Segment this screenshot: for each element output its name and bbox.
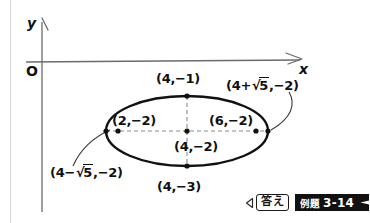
label-right-vertex: (6,−2) bbox=[209, 114, 253, 127]
dot-center bbox=[184, 128, 189, 133]
label-right-focus-suffix: ,−2) bbox=[269, 78, 299, 93]
left-arrow-icon bbox=[245, 197, 254, 209]
example-jp-label: 例題 bbox=[300, 196, 320, 210]
origin-label: O bbox=[26, 64, 38, 78]
radical-left: √5 bbox=[75, 166, 93, 179]
x-axis bbox=[26, 53, 302, 64]
leader-line-left-focus bbox=[73, 130, 110, 166]
dot-left-focus bbox=[115, 128, 120, 133]
example-number: 3-14 bbox=[323, 196, 366, 210]
leader-line-right-focus bbox=[271, 92, 292, 130]
dot-left-vertex bbox=[103, 128, 108, 133]
label-left-focus: (4−√5,−2) bbox=[50, 166, 123, 179]
radicand-left: 5 bbox=[83, 164, 93, 180]
dot-right-focus bbox=[253, 128, 258, 133]
dot-top-vertex bbox=[184, 93, 189, 98]
dot-bottom-vertex bbox=[184, 163, 189, 168]
label-left-focus-prefix: (4− bbox=[50, 165, 75, 180]
x-axis-label: x bbox=[299, 62, 308, 76]
answer-label: 答え bbox=[256, 194, 289, 211]
y-axis bbox=[42, 18, 48, 212]
radical-right: √5 bbox=[251, 79, 269, 92]
figure-page: y x O (4,−1) (2,−2) (6,−2) (4,−2) (4,−3)… bbox=[0, 0, 370, 223]
label-left-vertex: (2,−2) bbox=[112, 114, 156, 127]
dot-right-vertex bbox=[265, 128, 270, 133]
label-center: (4,−2) bbox=[174, 140, 218, 153]
radicand-right: 5 bbox=[259, 77, 269, 93]
label-top-vertex: (4,−1) bbox=[156, 72, 200, 85]
example-banner: 例題 3-14 bbox=[295, 194, 369, 211]
answer-badge[interactable]: 答え bbox=[245, 194, 289, 211]
label-right-focus-prefix: (4+ bbox=[226, 78, 251, 93]
label-bottom-vertex: (4,−3) bbox=[157, 180, 201, 193]
label-left-focus-suffix: ,−2) bbox=[93, 165, 123, 180]
label-right-focus: (4+√5,−2) bbox=[226, 79, 299, 92]
y-axis-label: y bbox=[27, 16, 36, 30]
